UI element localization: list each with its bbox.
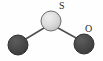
molecule-figure: S O	[0, 0, 103, 61]
atom-sphere-center	[41, 11, 61, 31]
atom-sphere-right	[74, 34, 94, 54]
bond-right	[58, 28, 78, 39]
atom-sphere-left	[8, 35, 28, 55]
atom-label-sulfur: S	[59, 1, 65, 11]
atom-label-oxygen: O	[85, 24, 92, 34]
bond-left	[24, 28, 44, 40]
